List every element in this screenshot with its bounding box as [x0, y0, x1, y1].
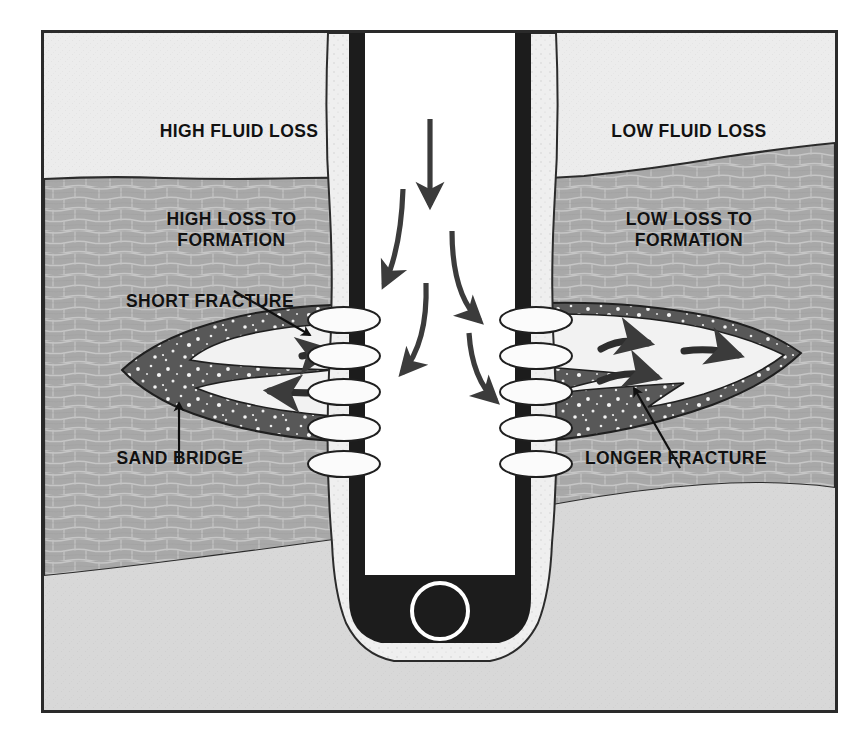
perforation	[500, 415, 572, 441]
perforation	[308, 451, 380, 477]
perforation	[500, 379, 572, 405]
perforation	[500, 451, 572, 477]
wellbore-assembly	[308, 33, 572, 661]
perforation	[500, 343, 572, 369]
perforation	[308, 307, 380, 333]
shoe-interior-gap	[365, 553, 515, 575]
diagram-stage: HIGH FLUID LOSS LOW FLUID LOSS HIGH LOSS…	[0, 0, 866, 745]
perforation	[308, 379, 380, 405]
casing-shoe	[349, 569, 531, 643]
perforation	[308, 343, 380, 369]
wellbore-cross-section	[44, 33, 835, 710]
perforation	[308, 415, 380, 441]
perforation	[500, 307, 572, 333]
figure-frame: HIGH FLUID LOSS LOW FLUID LOSS HIGH LOSS…	[41, 30, 838, 713]
wellbore-interior	[365, 33, 515, 599]
